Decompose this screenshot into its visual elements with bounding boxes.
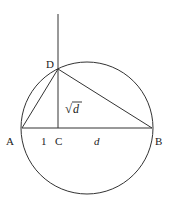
- radical-variable: d: [73, 102, 80, 116]
- radical-sign: √: [65, 101, 73, 116]
- point-label-b: B: [155, 135, 162, 147]
- segment-ad: [22, 69, 58, 128]
- point-label-c: C: [55, 135, 62, 147]
- segment-label-cd: √ d: [65, 101, 82, 116]
- point-label-a: A: [6, 135, 14, 147]
- segment-label-cb: d: [94, 135, 100, 147]
- point-label-d: D: [46, 58, 54, 70]
- segment-db: [58, 69, 152, 128]
- segment-label-ac: 1: [41, 135, 47, 147]
- geometry-diagram: A B C D 1 d √ d: [0, 0, 172, 204]
